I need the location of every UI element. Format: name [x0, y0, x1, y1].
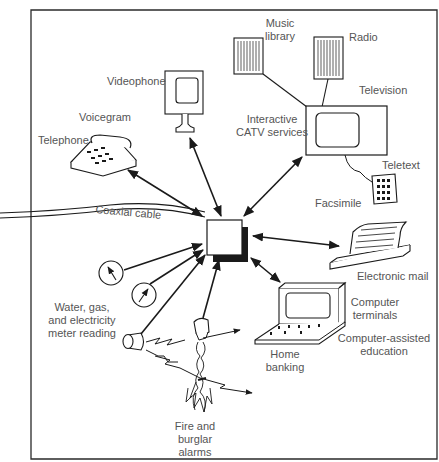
computer-terminal-icon — [255, 283, 345, 344]
cable-tv-services-diagram: Music library Radio Television Interacti… — [0, 0, 439, 462]
label-line: Fire and — [170, 420, 220, 433]
label-computer-assisted-education: Computer-assisted education — [335, 332, 433, 358]
television-icon — [306, 106, 387, 182]
label-videophone: Videophone — [107, 75, 166, 88]
arrow-meter-1 — [124, 244, 202, 270]
label-meter-reading: Water, gas, and electricity meter readin… — [45, 301, 119, 340]
label-line: Computer — [345, 296, 405, 309]
arrow-videophone — [190, 138, 221, 216]
label-telephone: Telephone — [38, 134, 89, 147]
label-fire-burglar-alarms: Fire and burglar alarms — [170, 420, 220, 459]
label-facsimile: Facsimile — [315, 197, 361, 210]
label-line: and electricity — [45, 314, 119, 327]
label-interactive-catv: Interactive CATV services — [234, 113, 310, 139]
diagram-canvas — [0, 0, 439, 462]
arrow-television — [244, 157, 302, 216]
label-voicegram: Voicegram — [79, 111, 131, 124]
label-line: Interactive — [234, 113, 310, 126]
videophone-icon — [165, 71, 203, 132]
fire-alarm-icon — [155, 318, 252, 412]
label-line: meter reading — [45, 327, 119, 340]
burglar-sensor-icon — [123, 333, 185, 362]
label-teletext: Teletext — [382, 159, 420, 172]
label-music-library: Music library — [258, 17, 302, 43]
label-line: education — [335, 345, 433, 358]
hub-terminal-icon — [207, 220, 248, 262]
label-line: CATV services — [234, 126, 310, 139]
label-line: burglar — [170, 433, 220, 446]
label-line: terminals — [345, 309, 405, 322]
arrow-fire-alarm — [203, 260, 219, 318]
music-library-speaker-icon — [234, 38, 307, 107]
arrow-computer-terminals — [251, 258, 280, 282]
electronic-mail-printer-icon — [330, 222, 410, 269]
label-television: Television — [359, 84, 407, 97]
label-line: library — [258, 30, 302, 43]
label-electronic-mail: Electronic mail — [357, 270, 429, 283]
label-home-banking: Home banking — [262, 348, 308, 374]
label-line: banking — [262, 361, 308, 374]
label-line: Home — [262, 348, 308, 361]
label-line: Water, gas, — [45, 301, 119, 314]
arrow-electronic-mail — [253, 236, 339, 246]
radio-speaker-icon — [314, 37, 343, 107]
label-line: alarms — [170, 446, 220, 459]
label-radio: Radio — [349, 31, 378, 44]
teletext-keypad-icon — [372, 174, 397, 204]
label-line: Music — [258, 17, 302, 30]
label-line: Computer-assisted — [335, 332, 433, 345]
label-computer-terminals: Computer terminals — [345, 296, 405, 322]
